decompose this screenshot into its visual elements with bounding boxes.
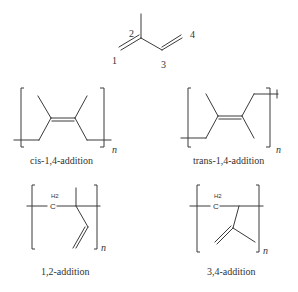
locant-4: 4 [190, 29, 195, 40]
atom-h2: H2 [214, 193, 222, 199]
repeat-subscript: n [263, 245, 268, 256]
repeat-subscript: n [101, 242, 106, 253]
trans-1-4-structure: n trans-1,4-addition [181, 88, 281, 166]
caption-cis-1-4: cis-1,4-addition [30, 155, 93, 166]
left-bracket [197, 185, 200, 252]
isoprene-monomer: 2 1 3 4 [112, 14, 195, 70]
locant-1: 1 [112, 55, 117, 66]
isoprene-polymerization-diagram: 2 1 3 4 n cis-1,4-addition n tra [0, 0, 298, 292]
3-4-addition-structure: H2 C n 3,4-addition [190, 185, 268, 277]
right-bracket [100, 88, 104, 147]
atom-c: C [50, 202, 56, 211]
caption-trans-1-4: trans-1,4-addition [193, 155, 264, 166]
right-bracket [94, 185, 97, 249]
locant-2: 2 [129, 28, 134, 39]
atom-h2: H2 [51, 193, 59, 199]
1-2-addition-structure: H2 C n 1,2-addition [27, 185, 106, 277]
repeat-subscript: n [276, 144, 281, 155]
atom-c: C [213, 202, 219, 211]
left-bracket [21, 88, 24, 147]
right-bracket [266, 88, 270, 147]
cis-1-4-structure: n cis-1,4-addition [14, 88, 117, 166]
left-bracket [32, 185, 35, 249]
caption-1-2: 1,2-addition [41, 266, 90, 277]
locant-3: 3 [161, 59, 166, 70]
repeat-subscript: n [112, 144, 117, 155]
right-bracket [256, 185, 259, 252]
caption-3-4: 3,4-addition [207, 266, 256, 277]
